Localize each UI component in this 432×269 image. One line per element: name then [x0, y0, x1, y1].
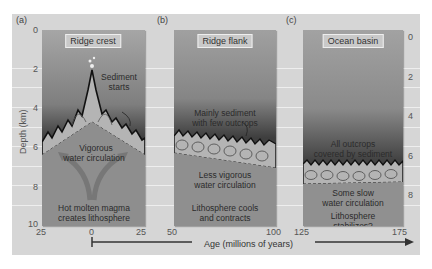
ridge-crest-illustration — [42, 30, 145, 226]
y-axis-label: Depth (km) — [18, 109, 28, 154]
panel-b-title: Ridge flank — [197, 34, 252, 48]
figure-frame: 0 2 4 6 8 10 Depth (km) 0 2 4 6 8 (a) (b… — [12, 14, 420, 255]
label-all-outcrops: All outcrops — [331, 139, 375, 149]
x-axis-label: Age (millions of years) — [204, 239, 293, 249]
panel-c-title: Ocean basin — [323, 34, 384, 48]
y-tick-right-0: 0 — [408, 32, 413, 42]
label-mainly-sediment: Mainly sediment — [194, 108, 255, 118]
panel-ocean-basin: Ocean basin All outcrops covered by sedi… — [303, 30, 403, 226]
panel-b-letter: (b) — [157, 15, 168, 25]
y-tick-right-4: 4 — [408, 111, 413, 121]
y-tick-4: 4 — [33, 103, 38, 113]
label-lithosphere-cools: Lithosphere cools — [192, 203, 259, 213]
y-tick-0: 0 — [33, 25, 38, 35]
label-starts: starts — [109, 82, 130, 92]
label-covered-by-sediment: covered by sediment — [314, 149, 392, 159]
label-less-vigorous: Less vigorous — [199, 170, 251, 180]
ridge-flank-illustration — [174, 30, 276, 226]
panel-c-letter: (c) — [286, 15, 297, 25]
panel-a-letter: (a) — [16, 15, 27, 25]
label-contracts: and contracts — [199, 213, 250, 223]
x-tick-25-left: 25 — [36, 227, 46, 237]
y-tick-right-8: 8 — [408, 190, 413, 200]
y-tick-right-6: 6 — [408, 151, 413, 161]
label-few-outcrops: with few outcrops — [192, 118, 258, 128]
label-water-circulation-b: water circulation — [194, 180, 255, 190]
label-water-circulation-c: water circulation — [322, 198, 383, 208]
y-tick-2: 2 — [33, 64, 38, 74]
label-lithosphere-c: Lithosphere — [331, 211, 375, 221]
label-creates-lithosphere: creates lithosphere — [58, 213, 130, 223]
panel-ridge-crest: Ridge crest Sediment starts Vigorous wat… — [42, 30, 145, 226]
label-water-circulation-a: water circulation — [63, 153, 124, 163]
label-stabilizes: stabilizes? — [333, 221, 373, 226]
y-tick-right-2: 2 — [408, 72, 413, 82]
label-some-slow: Some slow — [332, 188, 374, 198]
label-vigorous: Vigorous — [79, 143, 112, 153]
panel-a-title: Ridge crest — [65, 34, 121, 48]
label-sediment: Sediment — [101, 72, 137, 82]
y-tick-8: 8 — [33, 182, 38, 192]
panel-ridge-flank: Ridge flank Mainly sediment with few out… — [174, 30, 276, 226]
label-hot-magma: Hot molten magma — [58, 203, 130, 213]
y-tick-6: 6 — [33, 142, 38, 152]
